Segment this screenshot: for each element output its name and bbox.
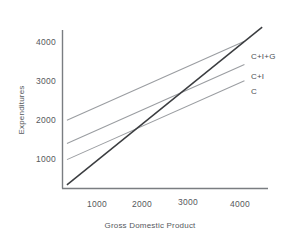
x-tick-label-1000: 1000 (87, 199, 107, 209)
x-axis-title: Gross Domestic Product (104, 221, 196, 230)
y-tick-label-1000: 1000 (36, 154, 56, 164)
series-label-c-i: C+I (251, 72, 264, 81)
x-tick-label-3000: 3000 (178, 197, 198, 207)
keynesian-cross-chart: 4000 3000 2000 1000 1000 2000 3000 4000 … (0, 0, 284, 241)
y-axis-title: Expenditures (17, 85, 26, 134)
y-tick-label-4000: 4000 (36, 37, 56, 47)
x-tick-label-4000: 4000 (230, 199, 250, 209)
x-tick-label-2000: 2000 (132, 199, 152, 209)
series-label-c: C (251, 87, 257, 96)
y-tick-label-3000: 3000 (36, 76, 56, 86)
series-label-c-i-g: C+I+G (251, 52, 276, 61)
chart-container: 4000 3000 2000 1000 1000 2000 3000 4000 … (0, 0, 284, 241)
y-tick-label-2000: 2000 (36, 115, 56, 125)
